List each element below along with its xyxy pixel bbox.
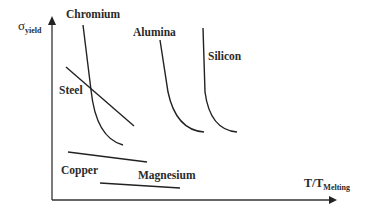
x-axis-arrow-icon <box>329 196 337 204</box>
y-axis-arrow-icon <box>48 16 56 25</box>
series-chromium <box>83 25 123 145</box>
x-axis-label-main: T/T <box>304 176 323 190</box>
x-axis-label: T/TMelting <box>304 176 350 192</box>
y-axis-label-sub: yield <box>25 26 41 35</box>
label-magnesium: Magnesium <box>138 169 196 181</box>
series-silicon <box>203 28 237 132</box>
series-alumina <box>160 40 204 132</box>
series-copper <box>68 152 147 162</box>
series-steel <box>66 67 134 126</box>
y-axis-label: σyield <box>18 18 41 35</box>
series-magnesium <box>100 183 180 188</box>
label-steel: Steel <box>59 84 83 96</box>
y-axis-label-main: σ <box>18 18 25 33</box>
label-alumina: Alumina <box>133 26 176 38</box>
x-axis-label-sub: Melting <box>323 183 350 192</box>
label-chromium: Chromium <box>66 8 120 20</box>
label-copper: Copper <box>61 164 98 176</box>
chart: σyield T/TMelting Chromium Alumina Silic… <box>0 0 373 216</box>
label-silicon: Silicon <box>208 50 241 62</box>
